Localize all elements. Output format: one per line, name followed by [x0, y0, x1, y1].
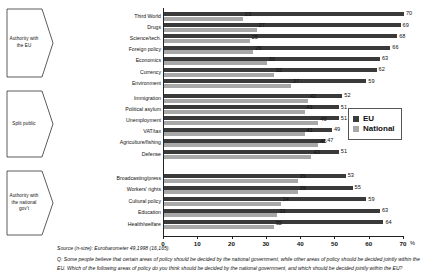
bar-eu [164, 174, 346, 178]
bar-eu [164, 23, 401, 27]
x-tick [369, 236, 370, 239]
question-note: Q: Some people believe that certain area… [57, 255, 427, 272]
bar-national [164, 213, 277, 217]
bar-value-label-national: 43 [313, 150, 319, 156]
group-bracket: Authority with the EU [6, 8, 54, 78]
bar-row-eu: 63 [164, 57, 404, 61]
bar-eu [164, 34, 397, 38]
group-bracket: Split public [6, 90, 54, 158]
bar-row-national: 23 [164, 17, 404, 21]
bar-national [164, 110, 305, 114]
bar-row-national: 25 [164, 39, 404, 43]
bar-national [164, 143, 318, 147]
legend-swatch-national [353, 126, 359, 132]
bar-national [164, 190, 298, 194]
bar-value-label-national: 39 [300, 186, 306, 192]
bar-value-label-national: 34 [283, 197, 289, 203]
bar-eu [164, 186, 353, 190]
bar-row-national: 42 [164, 99, 404, 103]
bar-national [164, 84, 291, 88]
legend-item-national: National [353, 125, 395, 133]
chart-footer: Source (n-size): Eurobarometer 49,1998 (… [57, 245, 427, 272]
bar-row-national: 37 [164, 84, 404, 88]
bar-row-eu: 53 [164, 174, 404, 178]
bar-value-label-national: 27 [259, 23, 265, 29]
bar-national [164, 132, 305, 136]
legend-label-eu: EU [363, 115, 374, 123]
bar-row-eu: 51 [164, 150, 404, 154]
bar-national [164, 155, 311, 159]
bar-national [164, 17, 243, 21]
category-label: Defense [142, 152, 161, 157]
bar-value-label-national: 45 [320, 139, 326, 145]
bar-row-national: 39 [164, 190, 404, 194]
bar-value-label-eu: 70 [406, 11, 412, 17]
category-label: Health/welfare [128, 222, 161, 227]
bar-row-eu: 70 [164, 12, 404, 16]
group-label: Authority with the EU [8, 36, 40, 49]
category-label: Political asylum [125, 107, 161, 112]
bar-value-label-national: 37 [293, 79, 299, 85]
bar-value-label-national: 23 [245, 12, 251, 18]
legend-label-national: National [363, 125, 395, 133]
bar-row-national: 43 [164, 155, 404, 159]
category-label: Unemployment [126, 118, 161, 123]
bar-national [164, 99, 308, 103]
bar-value-label-national: 25 [252, 35, 258, 41]
x-tick [300, 236, 301, 239]
bar-eu [164, 79, 366, 83]
category-label: Environment [132, 81, 161, 86]
bar-eu [164, 209, 380, 213]
bar-value-label-national: 41 [307, 128, 313, 134]
bar-row-eu: 52 [164, 94, 404, 98]
group-label: Split public [8, 121, 40, 128]
bar-eu [164, 139, 325, 143]
bar-row-eu: 64 [164, 220, 404, 224]
category-label: Broadcasting/press [117, 176, 161, 181]
bar-value-label-national: 32 [276, 68, 282, 74]
bar-row-national: 34 [164, 202, 404, 206]
category-label: Workers' rights [127, 187, 161, 192]
bar-national [164, 73, 274, 77]
bar-national [164, 61, 267, 65]
source-note: Source (n-size): Eurobarometer 49,1998 (… [57, 245, 427, 251]
bar-national [164, 179, 298, 183]
bar-row-national: 26 [164, 50, 404, 54]
group-label: Authority with the national gov't [8, 193, 40, 213]
bar-eu [164, 116, 339, 120]
bar-value-label-national: 45 [320, 117, 326, 123]
category-label: Immigration [134, 96, 161, 101]
bar-row-eu: 59 [164, 79, 404, 83]
chart-figure: Authority with the EU Split public Autho… [0, 0, 434, 276]
bar-row-national: 30 [164, 61, 404, 65]
category-label: Science/tech. [130, 36, 161, 41]
x-tick [232, 236, 233, 239]
bar-value-label-national: 41 [307, 105, 313, 111]
bar-national [164, 28, 257, 32]
bar-value-label-national: 30 [269, 57, 275, 63]
bar-eu [164, 220, 383, 224]
x-tick [266, 236, 267, 239]
bar-national [164, 50, 253, 54]
bar-eu [164, 12, 404, 16]
bar-national [164, 39, 250, 43]
bar-row-national: 32 [164, 73, 404, 77]
bar-row-national: 33 [164, 213, 404, 217]
x-tick [197, 236, 198, 239]
x-tick [163, 236, 164, 239]
bar-national [164, 225, 274, 229]
group-bracket: Authority with the national gov't [6, 170, 54, 236]
category-label: Agriculture/fishing [120, 140, 161, 145]
category-label: Education [138, 210, 161, 215]
x-tick [334, 236, 335, 239]
bar-value-label-national: 33 [279, 209, 285, 215]
category-label: Foreign policy [129, 47, 161, 52]
x-axis [163, 236, 403, 237]
bar-value-label-national: 26 [255, 46, 261, 52]
category-label: Economics [136, 58, 161, 63]
bar-row-eu: 69 [164, 23, 404, 27]
bar-eu [164, 197, 366, 201]
chart-legend: EU National [348, 108, 402, 140]
bar-row-national: 32 [164, 225, 404, 229]
bar-row-national: 39 [164, 179, 404, 183]
